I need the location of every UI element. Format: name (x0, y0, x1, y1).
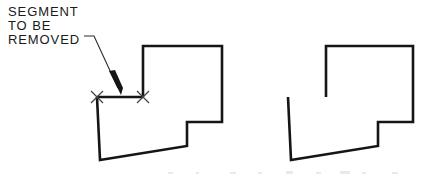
cad-segment-removal-figure: SEGMENT TO BE REMOVED (0, 0, 422, 175)
annotation-line-3: REMOVED (8, 32, 80, 47)
annotation-line-1: SEGMENT (8, 4, 79, 19)
annotation-line-2: TO BE (8, 18, 51, 33)
figure-canvas: SEGMENT TO BE REMOVED (0, 0, 422, 175)
